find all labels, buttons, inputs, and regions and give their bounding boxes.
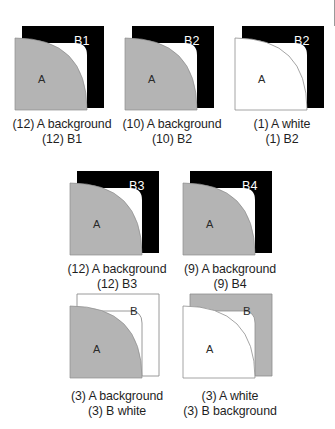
panel-6: B A (3) A background (3) B white (63, 290, 171, 420)
panel-5-caption-line1: (9) A background (184, 262, 276, 276)
panel-2-figure: B2 A (118, 22, 226, 114)
panel-2: B2 A (10) A background (10) B2 (118, 22, 226, 142)
figure-sheet: B1 A (12) A background (12) B1 B2 A (1 (0, 0, 335, 429)
panel-1-figure: B1 A (8, 22, 116, 114)
panel-4-label-b: B3 (129, 180, 145, 193)
panel-7-caption: (3) A white (3) B background (168, 389, 292, 419)
panel-2-label-a: A (148, 74, 155, 85)
panel-3: B2 A (1) A white (1) B2 (228, 22, 335, 142)
panel-1-caption-line1: (12) A background (13, 117, 112, 131)
panel-7-label-a: A (206, 344, 213, 355)
panel-2-caption: (10) A background (10) B2 (112, 117, 232, 147)
panel-6-shape-a (63, 290, 171, 386)
panel-1-shape-a (8, 22, 116, 114)
panel-4: B3 A (12) A background (12) B3 (63, 167, 171, 287)
panel-1-caption: (12) A background (12) B1 (2, 117, 122, 147)
panel-4-figure: B3 A (63, 167, 171, 259)
panel-5-shape-a (176, 167, 284, 259)
panel-6-label-b: B (130, 306, 138, 318)
panel-3-label-b: B2 (294, 35, 310, 48)
panel-7-figure: B A (176, 290, 284, 386)
panel-3-figure: B2 A (228, 22, 335, 114)
panel-4-caption: (12) A background (12) B3 (57, 262, 177, 292)
panel-4-shape-a (63, 167, 171, 259)
panel-7-caption-line1: (3) A white (202, 389, 259, 403)
panel-6-caption: (3) A background (3) B white (55, 389, 179, 419)
panel-5: B4 A (9) A background (9) B4 (176, 167, 284, 287)
panel-1-label-a: A (38, 74, 45, 85)
panel-4-caption-line1: (12) A background (68, 262, 167, 276)
panel-6-caption-line2: (3) B white (55, 404, 179, 419)
panel-6-figure: B A (63, 290, 171, 386)
panel-2-caption-line1: (10) A background (123, 117, 222, 131)
panel-1-label-b: B1 (74, 35, 90, 48)
panel-5-caption: (9) A background (9) B4 (170, 262, 290, 292)
panel-5-label-b: B4 (242, 180, 258, 193)
panel-1: B1 A (12) A background (12) B1 (8, 22, 116, 142)
panel-3-caption-line2: (1) B2 (222, 132, 335, 147)
panel-1-caption-line2: (12) B1 (2, 132, 122, 147)
panel-2-label-b: B2 (184, 35, 200, 48)
panel-4-label-a: A (93, 219, 100, 230)
panel-5-figure: B4 A (176, 167, 284, 259)
panel-6-caption-line1: (3) A background (71, 389, 163, 403)
panel-2-shape-a (118, 22, 226, 114)
panel-7-label-b: B (243, 306, 251, 318)
panel-5-label-a: A (206, 219, 213, 230)
panel-7: B A (3) A white (3) B background (176, 290, 284, 420)
panel-2-caption-line2: (10) B2 (112, 132, 232, 147)
panel-6-label-a: A (93, 344, 100, 355)
panel-3-caption-line1: (1) A white (254, 117, 311, 131)
panel-3-shape-a (228, 22, 335, 114)
panel-3-label-a: A (258, 74, 265, 85)
panel-7-shape-a (176, 290, 284, 386)
panel-7-caption-line2: (3) B background (168, 404, 292, 419)
panel-3-caption: (1) A white (1) B2 (222, 117, 335, 147)
